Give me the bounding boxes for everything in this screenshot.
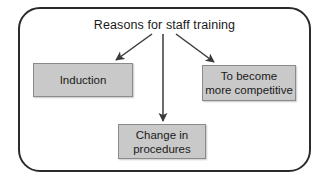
node-competitive-label: To become more competitive xyxy=(205,69,293,97)
diagram-title: Reasons for staff training xyxy=(0,18,329,32)
diagram-canvas: Reasons for staff training Induction To … xyxy=(0,0,329,183)
node-induction-label: Induction xyxy=(60,73,107,87)
node-competitive: To become more competitive xyxy=(202,65,296,101)
node-procedures-label: Change in procedures xyxy=(133,128,191,156)
node-induction: Induction xyxy=(33,63,133,97)
node-procedures: Change in procedures xyxy=(118,124,206,159)
